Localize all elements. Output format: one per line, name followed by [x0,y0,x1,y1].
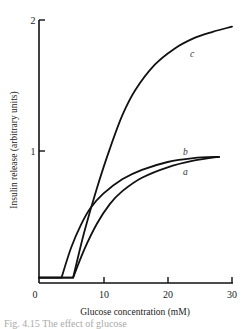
x-tick-label: 0 [33,289,38,300]
curves [39,27,232,278]
curve-c [39,27,232,278]
y-axis-title: Insulin release (arbitrary units) [9,91,20,208]
y-tick-label: 1 [31,146,36,157]
axes [39,20,233,283]
curve-label-c: c [190,49,195,59]
x-tick-label: 20 [163,289,173,300]
x-tick-label: 10 [99,289,109,300]
curve-label-a: a [183,167,188,177]
curve-label-b: b [183,147,188,157]
figure-caption: Fig. 4.15 The effect of glucose [4,318,127,329]
y-tick-label: 2 [31,15,36,26]
x-axis-title: Glucose concentration (mM) [80,307,190,318]
curve-b [39,157,219,278]
x-tick-label: 30 [227,289,237,300]
